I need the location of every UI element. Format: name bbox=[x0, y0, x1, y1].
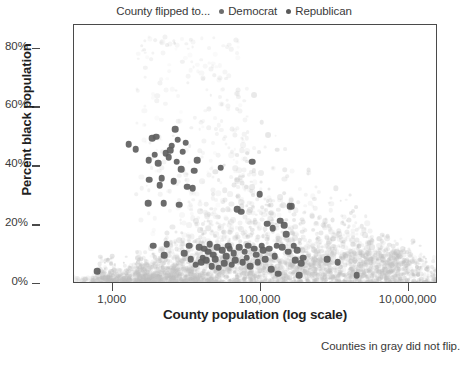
scatter-point-nonflipped bbox=[272, 282, 275, 283]
scatter-point-flipped[interactable] bbox=[212, 256, 219, 263]
scatter-point-flipped[interactable] bbox=[189, 185, 196, 192]
legend-item-democrat[interactable]: Democrat bbox=[219, 5, 277, 17]
scatter-point-flipped[interactable] bbox=[285, 248, 292, 255]
scatter-point-flipped[interactable] bbox=[269, 225, 276, 232]
scatter-point-flipped[interactable] bbox=[146, 176, 153, 183]
scatter-point-flipped[interactable] bbox=[268, 266, 275, 273]
scatter-point-nonflipped bbox=[236, 282, 238, 283]
scatter-point-nonflipped bbox=[124, 282, 128, 283]
scatter-point-nonflipped bbox=[129, 282, 132, 283]
scatter-point-nonflipped bbox=[222, 282, 225, 283]
scatter-point-flipped[interactable] bbox=[186, 242, 193, 249]
scatter-point-nonflipped bbox=[237, 282, 240, 283]
legend-item-republican[interactable]: Republican bbox=[286, 5, 352, 17]
scatter-point-flipped[interactable] bbox=[170, 178, 177, 185]
scatter-point-nonflipped bbox=[149, 282, 152, 283]
scatter-point-nonflipped bbox=[267, 282, 270, 283]
scatter-point-flipped[interactable] bbox=[169, 142, 176, 149]
scatter-point-nonflipped bbox=[192, 282, 195, 283]
scatter-point-nonflipped bbox=[103, 283, 106, 284]
scatter-point-nonflipped bbox=[275, 282, 278, 283]
x-tick-mark bbox=[260, 283, 261, 291]
scatter-point-flipped[interactable] bbox=[275, 270, 282, 277]
scatter-point-nonflipped bbox=[135, 282, 138, 283]
scatter-point-flipped[interactable] bbox=[151, 151, 158, 158]
scatter-point-flipped[interactable] bbox=[294, 247, 301, 254]
scatter-point-flipped[interactable] bbox=[266, 245, 273, 252]
scatter-point-flipped[interactable] bbox=[324, 256, 331, 263]
scatter-point-nonflipped bbox=[244, 282, 247, 283]
scatter-point-flipped[interactable] bbox=[221, 260, 228, 267]
scatter-point-flipped[interactable] bbox=[178, 166, 185, 173]
chart-footnote: Counties in gray did not flip. bbox=[321, 340, 460, 352]
scatter-point-nonflipped bbox=[413, 282, 416, 283]
scatter-point-flipped[interactable] bbox=[283, 231, 290, 238]
scatter-point-flipped[interactable] bbox=[288, 203, 295, 210]
scatter-point-flipped[interactable] bbox=[249, 159, 256, 166]
scatter-point-nonflipped bbox=[201, 282, 205, 283]
scatter-point-flipped[interactable] bbox=[145, 157, 152, 164]
scatter-point-nonflipped bbox=[380, 282, 383, 283]
scatter-point-flipped[interactable] bbox=[217, 164, 224, 171]
scatter-point-nonflipped bbox=[294, 282, 297, 283]
scatter-point-flipped[interactable] bbox=[175, 136, 182, 143]
scatter-point-flipped[interactable] bbox=[256, 191, 263, 198]
scatter-point-flipped[interactable] bbox=[296, 272, 303, 279]
scatter-point-flipped[interactable] bbox=[160, 200, 167, 207]
scatter-point-flipped[interactable] bbox=[172, 126, 179, 133]
scatter-point-flipped[interactable] bbox=[182, 139, 189, 146]
scatter-point-nonflipped bbox=[332, 282, 336, 283]
scatter-point-flipped[interactable] bbox=[156, 182, 163, 189]
scatter-point-flipped[interactable] bbox=[232, 257, 239, 264]
scatter-point-flipped[interactable] bbox=[354, 272, 361, 279]
scatter-point-nonflipped bbox=[95, 282, 98, 283]
scatter-point-flipped[interactable] bbox=[208, 263, 215, 270]
scatter-point-flipped[interactable] bbox=[145, 200, 152, 207]
scatter-point-flipped[interactable] bbox=[262, 256, 269, 263]
scatter-point-flipped[interactable] bbox=[300, 254, 307, 261]
scatter-point-nonflipped bbox=[273, 282, 277, 283]
scatter-point-flipped[interactable] bbox=[271, 253, 278, 260]
scatter-point-flipped[interactable] bbox=[223, 253, 230, 260]
scatter-point-flipped[interactable] bbox=[173, 159, 180, 166]
scatter-point-flipped[interactable] bbox=[247, 263, 254, 270]
scatter-point-nonflipped bbox=[213, 282, 216, 283]
scatter-point-flipped[interactable] bbox=[206, 241, 213, 248]
scatter-point-flipped[interactable] bbox=[125, 141, 132, 148]
scatter-point-nonflipped bbox=[202, 282, 204, 283]
scatter-point-flipped[interactable] bbox=[155, 160, 162, 167]
scatter-point-flipped[interactable] bbox=[181, 250, 188, 257]
scatter-point-flipped[interactable] bbox=[253, 251, 260, 258]
scatter-point-flipped[interactable] bbox=[161, 252, 168, 259]
scatter-point-flipped[interactable] bbox=[176, 201, 183, 208]
scatter-point-flipped[interactable] bbox=[158, 175, 165, 182]
scatter-point-nonflipped bbox=[423, 282, 426, 283]
scatter-point-flipped[interactable] bbox=[194, 157, 201, 164]
scatter-point-nonflipped bbox=[337, 282, 340, 283]
scatter-point-flipped[interactable] bbox=[230, 250, 237, 257]
scatter-point-nonflipped bbox=[287, 282, 290, 283]
legend-label-republican: Republican bbox=[295, 5, 352, 17]
scatter-point-flipped[interactable] bbox=[298, 260, 305, 267]
scatter-point-nonflipped bbox=[262, 282, 266, 283]
scatter-point-nonflipped bbox=[108, 282, 111, 283]
scatter-point-nonflipped bbox=[102, 282, 106, 283]
scatter-point-flipped[interactable] bbox=[179, 148, 186, 155]
x-tick-label: 100,000 bbox=[239, 293, 281, 305]
scatter-point-flipped[interactable] bbox=[238, 209, 245, 216]
scatter-point-nonflipped bbox=[223, 282, 226, 283]
scatter-point-flipped[interactable] bbox=[164, 241, 171, 248]
scatter-point-flipped[interactable] bbox=[191, 167, 198, 174]
scatter-point-flipped[interactable] bbox=[132, 146, 139, 153]
scatter-point-nonflipped bbox=[201, 282, 204, 283]
scatter-point-flipped[interactable] bbox=[281, 222, 288, 229]
scatter-point-flipped[interactable] bbox=[150, 242, 157, 249]
scatter-point-flipped[interactable] bbox=[165, 154, 172, 161]
scatter-point-flipped[interactable] bbox=[243, 254, 250, 261]
scatter-point-flipped[interactable] bbox=[334, 259, 341, 266]
scatter-point-nonflipped bbox=[172, 282, 175, 283]
scatter-point-flipped[interactable] bbox=[153, 134, 160, 141]
scatter-point-flipped[interactable] bbox=[255, 259, 262, 266]
scatter-point-nonflipped bbox=[436, 280, 437, 283]
scatter-point-flipped[interactable] bbox=[94, 268, 101, 275]
